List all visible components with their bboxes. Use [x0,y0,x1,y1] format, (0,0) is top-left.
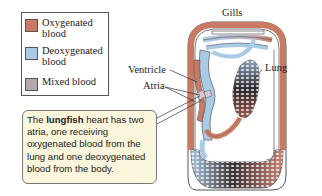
callout-bold-term: lungfish [46,114,83,125]
lung-label: Lung [265,62,287,73]
gills-label: Gills [222,7,242,18]
atria-label: Atria [143,80,165,91]
ventricle-label: Ventricle [128,64,166,75]
lungfish-callout: The lungfish heart has two atria, one re… [22,110,157,184]
